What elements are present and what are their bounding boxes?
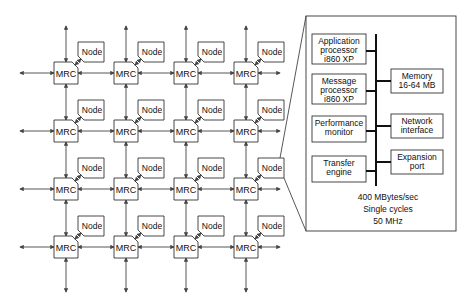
node-link bbox=[75, 117, 81, 123]
node-detail-panel: Applicationprocessori860 XPMessageproces… bbox=[280, 16, 456, 231]
node-link bbox=[135, 175, 141, 181]
mrc-label: MRC bbox=[236, 69, 257, 79]
block-label-app: i860 XP bbox=[324, 54, 354, 64]
node-label: Node bbox=[82, 47, 103, 57]
node-label: Node bbox=[142, 105, 163, 115]
node-link bbox=[135, 233, 141, 239]
node-link bbox=[75, 175, 81, 181]
node-link bbox=[195, 117, 201, 123]
mrc-label: MRC bbox=[56, 243, 77, 253]
node-label: Node bbox=[142, 47, 163, 57]
mrc-label: MRC bbox=[56, 185, 77, 195]
mrc-label: MRC bbox=[56, 69, 77, 79]
mrc-label: MRC bbox=[176, 69, 197, 79]
block-label-msg: i860 XP bbox=[324, 94, 354, 104]
spec-line: Single cycles bbox=[363, 204, 413, 214]
node-link bbox=[195, 233, 201, 239]
block-label-net: interface bbox=[401, 125, 434, 135]
node-label: Node bbox=[142, 163, 163, 173]
node-label: Node bbox=[262, 221, 283, 231]
mrc-label: MRC bbox=[116, 69, 137, 79]
node-label: Node bbox=[82, 163, 103, 173]
mrc-label: MRC bbox=[116, 185, 137, 195]
node-link bbox=[255, 117, 261, 123]
node-link bbox=[135, 117, 141, 123]
node-label: Node bbox=[202, 163, 223, 173]
spec-line: 400 MBytes/sec bbox=[358, 192, 419, 202]
block-label-perf: monitor bbox=[325, 127, 354, 137]
block-label-xfer: engine bbox=[326, 167, 352, 177]
node-label: Node bbox=[142, 221, 163, 231]
mrc-label: MRC bbox=[176, 127, 197, 137]
mrc-label: MRC bbox=[176, 185, 197, 195]
node-link bbox=[75, 59, 81, 65]
mrc-label: MRC bbox=[236, 243, 257, 253]
mrc-label: MRC bbox=[176, 243, 197, 253]
node-label: Node bbox=[262, 163, 283, 173]
spec-line: 50 MHz bbox=[373, 216, 402, 226]
mrc-label: MRC bbox=[116, 243, 137, 253]
zoom-line-top bbox=[280, 16, 306, 158]
node-label: Node bbox=[202, 47, 223, 57]
mrc-label: MRC bbox=[56, 127, 77, 137]
node-link bbox=[75, 233, 81, 239]
node-label: Node bbox=[82, 105, 103, 115]
block-label-mem: 16-64 MB bbox=[399, 80, 436, 90]
node-label: Node bbox=[82, 221, 103, 231]
node-link bbox=[135, 59, 141, 65]
zoom-line-bottom bbox=[284, 178, 306, 231]
node-label: Node bbox=[202, 105, 223, 115]
node-label: Node bbox=[262, 105, 283, 115]
node-label: Node bbox=[202, 221, 223, 231]
mrc-label: MRC bbox=[236, 185, 257, 195]
block-label-exp: port bbox=[410, 161, 425, 171]
node-link bbox=[255, 59, 261, 65]
node-link bbox=[255, 175, 261, 181]
router-mesh: MRCNodeMRCNodeMRCNodeMRCNodeMRCNodeMRCNo… bbox=[20, 26, 284, 292]
node-link bbox=[255, 233, 261, 239]
mrc-label: MRC bbox=[236, 127, 257, 137]
mesh-diagram: MRCNodeMRCNodeMRCNodeMRCNodeMRCNodeMRCNo… bbox=[0, 0, 466, 308]
mrc-label: MRC bbox=[116, 127, 137, 137]
node-link bbox=[195, 175, 201, 181]
node-link bbox=[195, 59, 201, 65]
node-label: Node bbox=[262, 47, 283, 57]
